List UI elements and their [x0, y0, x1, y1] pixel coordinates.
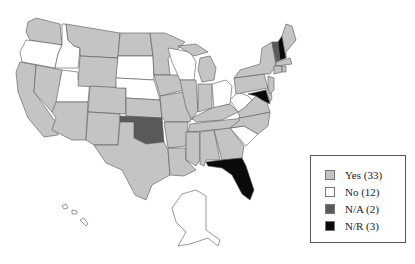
- state-ND: [118, 33, 153, 56]
- state-KS: [126, 98, 162, 118]
- state-SD: [116, 56, 154, 80]
- state-MS: [186, 132, 200, 166]
- state-IN: [198, 84, 212, 112]
- state-CO: [88, 86, 126, 114]
- legend-item-na: N/A (2): [325, 200, 405, 217]
- state-AR: [164, 122, 188, 148]
- state-WY: [78, 56, 118, 88]
- state-CT: [274, 66, 282, 74]
- state-HI-2: [62, 204, 68, 209]
- legend-label-yes: Yes (33): [345, 169, 382, 181]
- state-OH: [212, 80, 232, 108]
- state-HI: [80, 218, 88, 226]
- state-NM: [86, 112, 120, 145]
- state-MI: [198, 56, 216, 82]
- legend-label-nr: N/R (3): [345, 220, 379, 232]
- state-NJ: [268, 76, 274, 94]
- state-AK: [172, 190, 220, 246]
- legend-swatch-yes: [325, 170, 335, 180]
- legend-item-yes: Yes (33): [325, 166, 405, 183]
- state-RI: [282, 66, 286, 72]
- legend-swatch-no: [325, 187, 335, 197]
- state-FL: [206, 158, 254, 200]
- legend: Yes (33) No (12) N/A (2) N/R (3): [310, 155, 406, 243]
- legend-item-nr: N/R (3): [325, 217, 405, 234]
- state-NY: [234, 42, 276, 78]
- legend-item-no: No (12): [325, 183, 405, 200]
- state-HI-3: [72, 210, 77, 214]
- legend-label-no: No (12): [345, 186, 380, 198]
- legend-label-na: N/A (2): [345, 203, 379, 215]
- legend-swatch-na: [325, 204, 335, 214]
- legend-swatch-nr: [325, 221, 335, 231]
